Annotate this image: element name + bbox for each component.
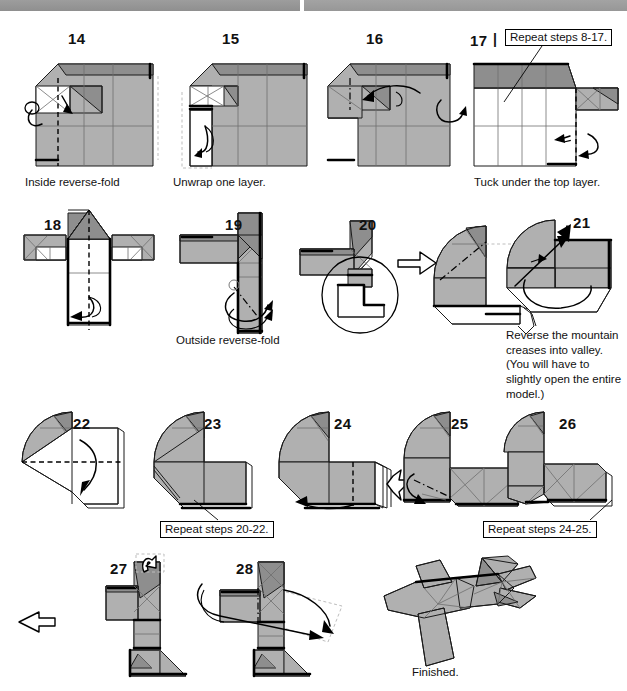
turn-over-arrow-16-to-17 [435, 92, 471, 128]
step-number-22: 22 [73, 415, 91, 432]
callout-repeat-20-22: Repeat steps 20-22. [160, 521, 274, 538]
step-number-24: 24 [334, 415, 352, 432]
step-caption-14: Inside reverse-fold [25, 176, 120, 188]
figure-step-21 [505, 218, 625, 338]
step-number-25: 25 [451, 415, 469, 432]
step-caption-21: Reverse the mountain creases into valley… [506, 328, 624, 402]
callout-repeat-8-17: Repeat steps 8-17. [505, 29, 612, 46]
figure-step-15 [172, 48, 317, 178]
figure-step-14 [18, 48, 163, 178]
step-number-20: 20 [359, 216, 377, 233]
figure-step-18 [18, 205, 163, 330]
figure-step-28 [196, 550, 356, 690]
step-number-21: 21 [573, 214, 591, 231]
step-number-28: 28 [236, 560, 254, 577]
scan-edge-left-segment [0, 0, 300, 11]
view-change-arrow-27 [17, 608, 59, 636]
step-number-18: 18 [44, 216, 62, 233]
finished-caption: Finished. [412, 666, 459, 678]
scanned-page-top-edge [0, 0, 627, 11]
step-number-15: 15 [222, 30, 240, 47]
step-number-14: 14 [68, 30, 86, 47]
turnover-symbol-17: | [493, 31, 497, 47]
step-number-26: 26 [559, 415, 577, 432]
callout-leader-8-17 [498, 44, 568, 114]
step-number-17: 17 [470, 32, 488, 49]
step-number-16: 16 [366, 30, 384, 47]
step-caption-17: Tuck under the top layer. [474, 176, 600, 188]
step-number-27: 27 [110, 560, 128, 577]
scan-edge-right-segment [304, 0, 627, 11]
step-number-23: 23 [204, 415, 222, 432]
callout-repeat-24-25: Repeat steps 24-25. [483, 521, 597, 538]
step-number-19: 19 [225, 216, 243, 233]
step-caption-15: Unwrap one layer. [173, 176, 266, 188]
step-caption-19: Outside reverse-fold [176, 334, 280, 346]
figure-finished-model [378, 552, 548, 672]
